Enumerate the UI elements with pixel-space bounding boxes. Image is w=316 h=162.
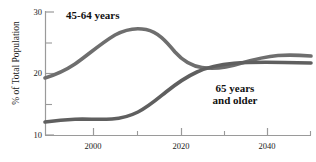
x-tick-label-2040: 2040 (247, 141, 287, 151)
line-chart-figure: % of Total Population 30 20 10 2000 2020… (0, 0, 316, 162)
series-annotation-65-plus-line2: and older (196, 94, 274, 106)
series-line-45-64 (45, 29, 311, 78)
series-annotation-65-plus-line1: 65 years (196, 82, 274, 94)
series-annotation-65-plus: 65 years and older (196, 82, 274, 106)
axis-spines (45, 11, 311, 136)
x-tick-label-2020: 2020 (161, 141, 201, 151)
plot-area (0, 0, 316, 162)
x-tick-label-2000: 2000 (73, 141, 113, 151)
x-ticks (94, 128, 311, 136)
y-axis-title: % of Total Population (11, 3, 21, 123)
series-annotation-45-64: 45-64 years (66, 9, 119, 21)
y-tick-label-30: 30 (26, 7, 42, 17)
y-tick-label-20: 20 (26, 68, 42, 78)
y-tick-label-10: 10 (26, 130, 42, 140)
